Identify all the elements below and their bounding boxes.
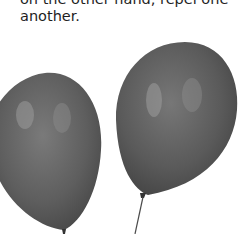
left-balloon: [0, 73, 101, 234]
balloon-string: [135, 197, 143, 234]
balloons-photo: [0, 0, 241, 234]
right-balloon: [116, 42, 237, 234]
